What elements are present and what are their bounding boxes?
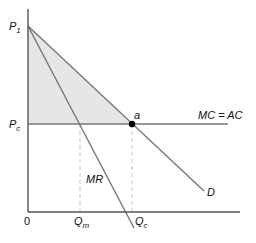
mr-curve <box>28 26 134 228</box>
origin-label: 0 <box>24 215 30 227</box>
qm-label: Qm <box>74 215 90 230</box>
mc-ac-label: MC = AC <box>198 109 243 121</box>
qc-label: Qc <box>135 215 148 230</box>
pc-label: Pc <box>9 118 20 133</box>
point-a-label: a <box>134 109 140 121</box>
point-a-marker <box>129 121 135 127</box>
mr-label: MR <box>86 173 103 185</box>
monopoly-diagram: P1 Pc 0 Qm Qc a MC = AC MR D <box>0 0 256 243</box>
demand-label: D <box>207 186 215 198</box>
p1-label: P1 <box>9 20 21 35</box>
